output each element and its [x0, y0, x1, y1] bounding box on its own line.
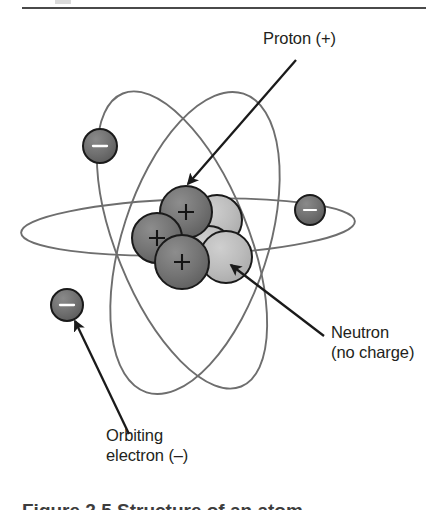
electron-particle	[295, 195, 325, 225]
label-proton: Proton (+)	[263, 28, 336, 48]
label-electron-line1: Orbiting	[106, 425, 188, 445]
proton-particle	[155, 235, 209, 289]
electron-particle	[51, 289, 83, 321]
figure-caption-cropped: Figure 2.5 Structure of an atom	[22, 501, 422, 510]
label-orbiting-electron: Orbiting electron (–)	[106, 425, 188, 465]
atom-structure-diagram	[0, 0, 435, 510]
electron-leader-arrow	[75, 321, 129, 434]
label-electron-line2: electron (–)	[106, 445, 188, 465]
figure-page: Proton (+) Neutron (no charge) Orbiting …	[0, 0, 435, 510]
electron-particle	[83, 129, 117, 163]
label-neutron-line1: Neutron	[331, 322, 414, 342]
label-proton-text: Proton (+)	[263, 29, 336, 47]
label-neutron-line2: (no charge)	[331, 342, 414, 362]
neutron-leader-arrow	[231, 265, 324, 336]
label-neutron: Neutron (no charge)	[331, 322, 414, 362]
